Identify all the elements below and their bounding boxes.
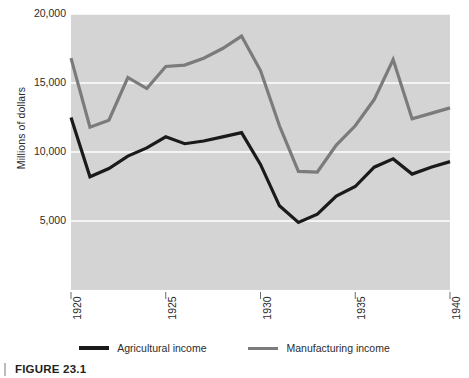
figure-caption-row: FIGURE 23.1: [0, 360, 469, 378]
x-axis-tick-label: 1925: [166, 286, 178, 330]
legend-swatch-icon: [79, 346, 109, 350]
legend-swatch-icon: [248, 347, 278, 350]
legend-entry-manufacturing-income: Manufacturing income: [248, 342, 389, 354]
x-axis-tick-label: 1930: [261, 286, 273, 330]
x-axis-tick-labels: 19201925193019351940: [0, 290, 469, 335]
y-axis-tick-label: 15,000: [4, 76, 66, 88]
y-axis-tick-label: 20,000: [4, 7, 66, 19]
chart-legend: Agricultural income Manufacturing income: [0, 338, 469, 358]
x-axis-tick-label: 1935: [355, 286, 367, 330]
legend-entry-agricultural-income: Agricultural income: [79, 342, 206, 354]
figure-container: 5,00010,00015,00020,000 Millions of doll…: [0, 0, 469, 378]
y-axis-title: Millions of dollars: [15, 63, 27, 193]
x-axis-tick-label: 1920: [71, 286, 83, 330]
legend-label: Manufacturing income: [286, 342, 389, 354]
chart-area: 5,00010,00015,00020,000 Millions of doll…: [0, 0, 469, 332]
figure-caption: FIGURE 23.1: [15, 363, 86, 375]
line-chart: [0, 0, 469, 332]
legend-label: Agricultural income: [117, 342, 206, 354]
y-axis-tick-labels: 5,00010,00015,00020,000: [0, 0, 66, 290]
y-axis-tick-label: 5,000: [4, 214, 66, 226]
y-axis-tick-label: 10,000: [4, 145, 66, 157]
caption-rule-divider: [4, 363, 6, 376]
x-axis-tick-label: 1940: [450, 286, 462, 330]
